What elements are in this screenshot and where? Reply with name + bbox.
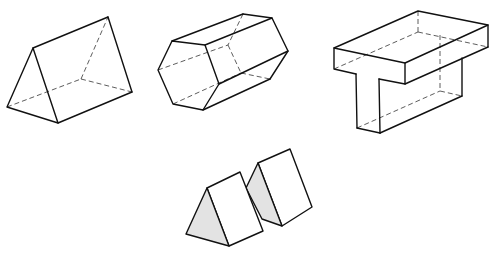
t-beam bbox=[334, 11, 488, 133]
triangular-prism bbox=[7, 17, 132, 123]
hexagonal-prism bbox=[158, 14, 288, 110]
twin-triangular-prisms bbox=[186, 149, 312, 246]
solids-diagram bbox=[0, 0, 497, 254]
